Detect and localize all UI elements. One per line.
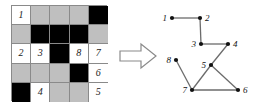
grid-cell[interactable]: 2	[12, 44, 31, 63]
grid-cell[interactable]: 6	[89, 64, 108, 83]
grid-cell[interactable]	[31, 25, 50, 44]
grid-cell[interactable]: 8	[70, 44, 89, 63]
grid-cell[interactable]	[31, 6, 50, 25]
grid-cell[interactable]	[50, 25, 69, 44]
graph-node[interactable]	[226, 42, 230, 46]
grid-panel: 12387645	[11, 5, 107, 101]
grid-cell[interactable]	[31, 64, 50, 83]
graph-node[interactable]	[199, 42, 203, 46]
graph-edge	[211, 44, 228, 65]
graph-node[interactable]	[198, 16, 202, 20]
grid-cell[interactable]	[89, 6, 108, 25]
grid-cell[interactable]	[70, 25, 89, 44]
graph-node-label: 4	[233, 39, 238, 49]
grid-cell[interactable]	[50, 64, 69, 83]
graph-edge	[200, 18, 201, 44]
graph-panel: 12345678	[155, 0, 255, 111]
grid-cell[interactable]: 5	[89, 83, 108, 102]
grid-cell[interactable]	[70, 6, 89, 25]
graph-node[interactable]	[170, 16, 174, 20]
graph-node[interactable]	[209, 63, 213, 67]
grid-cell[interactable]: 1	[12, 6, 31, 25]
grid-cell[interactable]: 7	[89, 44, 108, 63]
graph-edge	[211, 65, 238, 90]
graph-node-label: 5	[202, 60, 207, 70]
node-label-layer: 12345678	[163, 13, 249, 95]
graph-node[interactable]	[190, 88, 194, 92]
grid-cell[interactable]	[12, 64, 31, 83]
graph-node-label: 6	[243, 85, 248, 95]
grid-cell[interactable]	[12, 83, 31, 102]
arrow-container	[118, 40, 158, 72]
grid-cell[interactable]	[50, 44, 69, 63]
grid-cell[interactable]	[70, 83, 89, 102]
right-arrow-shape	[120, 44, 156, 68]
graph-node-label: 8	[167, 55, 172, 65]
grid-cell[interactable]	[12, 25, 31, 44]
graph-node-label: 2	[205, 13, 210, 23]
grid-cell[interactable]: 4	[31, 83, 50, 102]
node-layer	[170, 16, 240, 92]
graph-node-label: 7	[183, 85, 188, 95]
graph-node-label: 1	[163, 13, 168, 23]
grid-cell[interactable]: 3	[31, 44, 50, 63]
edge-layer	[172, 18, 238, 90]
figure-root: 12387645 12345678	[0, 0, 255, 111]
graph-node[interactable]	[236, 88, 240, 92]
grid-cell[interactable]	[50, 6, 69, 25]
puzzle-grid: 12387645	[11, 5, 107, 101]
right-arrow-icon	[118, 40, 158, 72]
graph-node[interactable]	[174, 58, 178, 62]
grid-cell[interactable]	[89, 25, 108, 44]
grid-cell[interactable]	[50, 83, 69, 102]
grid-cell[interactable]	[70, 64, 89, 83]
graph-node-label: 3	[191, 39, 197, 49]
graph-diagram: 12345678	[155, 0, 255, 111]
